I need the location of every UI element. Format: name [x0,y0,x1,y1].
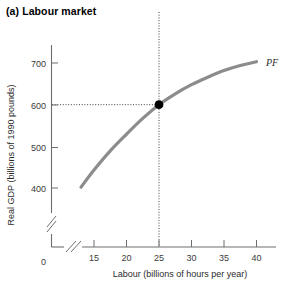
y-axis-break-mark-lower [47,221,56,232]
x-tick-label-35: 35 [219,253,229,263]
figure-panel: (a) Labour market 700 600 [0,0,288,291]
x-tick-label-40: 40 [251,253,261,263]
y-tick-label-400: 400 [31,184,46,194]
x-axis-break-mark-left [66,241,76,252]
y-tick-label-600: 600 [31,101,46,111]
curve-label-pf: PF [265,57,279,68]
x-tick-label-30: 30 [186,253,196,263]
x-tick-label-25: 25 [154,253,164,263]
y-axis-title: Real GDP (billions of 1990 pounds) [6,85,16,226]
x-axis-break-mark-right [71,241,81,252]
production-function-curve [81,62,257,187]
y-tick-label-700: 700 [31,59,46,69]
x-axis-title: Labour (billions of hours per year) [113,269,248,279]
axis-origin-label: 0 [41,257,46,267]
equilibrium-point-marker [155,100,164,109]
y-tick-label-500: 500 [31,143,46,153]
labour-market-chart: 700 600 500 400 0 15 20 25 30 35 40 Labo… [0,0,288,291]
y-axis-break-mark-upper [47,216,56,227]
x-tick-label-20: 20 [121,253,131,263]
x-tick-label-15: 15 [89,253,99,263]
